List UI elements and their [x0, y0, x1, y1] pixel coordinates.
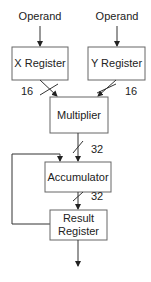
result-register-label-line1: Result: [63, 212, 94, 224]
multiplier-block: Multiplier: [50, 97, 108, 133]
accumulator-label: Accumulator: [47, 171, 108, 183]
mac-block-diagram: Operand Operand X Register Y Register 16…: [0, 0, 151, 282]
x-register-label: X Register: [14, 57, 66, 69]
accumulator-block: Accumulator: [45, 162, 111, 192]
bus-slash-icon: [40, 84, 58, 95]
bus-width-y: 16: [125, 85, 137, 97]
bus-width-mult: 32: [91, 143, 103, 155]
bus-width-acc: 32: [91, 190, 103, 202]
x-register-block: X Register: [12, 47, 68, 80]
multiplier-label: Multiplier: [57, 109, 101, 121]
operand-label-x: Operand: [19, 10, 62, 22]
result-register-block: Result Register: [50, 210, 107, 240]
operand-label-y: Operand: [96, 10, 139, 22]
y-register-block: Y Register: [88, 47, 145, 80]
bus-slash-icon: [97, 84, 116, 93]
bus-width-x: 16: [21, 85, 33, 97]
result-register-label-line2: Register: [58, 225, 99, 237]
y-register-label: Y Register: [91, 57, 142, 69]
